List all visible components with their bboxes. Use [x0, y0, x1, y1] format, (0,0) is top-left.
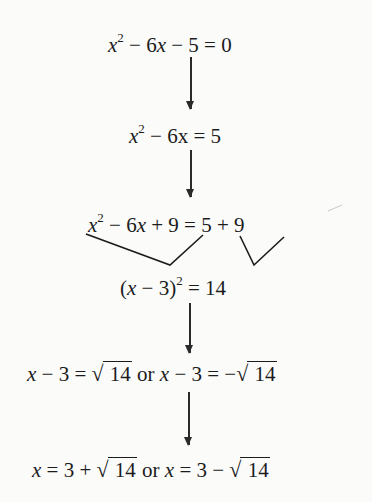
right-bracket: [240, 236, 284, 265]
equation-step-4: (x − 3)2 = 14: [120, 271, 226, 300]
left-bracket: [86, 234, 203, 265]
square-root: √ 14: [236, 362, 276, 386]
down-arrow-icon: [188, 392, 190, 445]
square-root: √ 14: [229, 458, 269, 482]
scan-mark: [328, 205, 342, 211]
equation-step-6: x = 3 + √ 14 or x = 3 − √ 14: [32, 458, 270, 482]
grouping-brackets: [0, 0, 372, 502]
square-root: √ 14: [97, 458, 137, 482]
down-arrow-icon: [189, 303, 191, 353]
equation-step-5: x − 3 = √ 14 or x − 3 = −√ 14: [27, 362, 277, 386]
square-root: √ 14: [92, 362, 132, 386]
